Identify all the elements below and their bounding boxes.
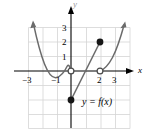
open-point-2-0 xyxy=(97,68,103,74)
x-tick-label-3: 3 xyxy=(112,76,117,85)
x-tick-label-neg3: −3 xyxy=(22,76,32,85)
graph-canvas xyxy=(0,0,151,134)
curve-arrow-left xyxy=(30,21,36,29)
x-tick-label-2: 2 xyxy=(97,76,102,85)
y-tick-label-2: 2 xyxy=(62,38,67,47)
x-axis-label: x xyxy=(138,66,142,75)
y-tick-label-3: 3 xyxy=(62,24,67,33)
filled-point-2-2 xyxy=(97,39,104,46)
graph-figure: −3 −1 2 3 1 2 3 x y y = f(x) xyxy=(0,0,151,134)
y-tick-label-1: 1 xyxy=(62,53,67,62)
curve-branch-right xyxy=(100,25,124,72)
curve-arrow-right xyxy=(120,22,126,29)
filled-point-0--2 xyxy=(68,97,75,104)
x-tick-label-neg1: −1 xyxy=(51,76,61,85)
function-label: y = f(x) xyxy=(82,97,112,107)
open-point-origin xyxy=(68,68,74,74)
y-axis-label: y xyxy=(73,0,77,9)
